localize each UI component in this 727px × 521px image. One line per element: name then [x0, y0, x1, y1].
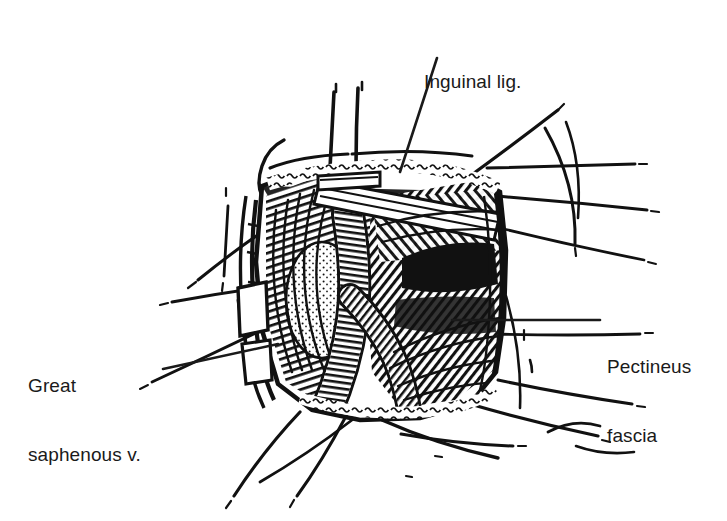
- label-pectineus-fascia: Pectineus fascia: [607, 309, 691, 493]
- label-pectineus-line-1: Pectineus: [607, 355, 691, 378]
- label-inguinal-line-1: Inguinal lig.: [424, 70, 521, 93]
- label-great-saphenous-vein: Great saphenous v.: [28, 328, 141, 512]
- retractor-tab-upper-left: [238, 282, 268, 336]
- label-pectineus-line-2: fascia: [607, 424, 691, 447]
- label-saphenous-line-1: Great: [28, 374, 141, 397]
- vessel-stump-cut-end: [318, 172, 380, 190]
- label-inguinal-ligament: Inguinal lig.: [424, 24, 521, 139]
- figure-page: Inguinal lig. Great saphenous v. Pectine…: [0, 0, 727, 521]
- label-saphenous-line-2: saphenous v.: [28, 443, 141, 466]
